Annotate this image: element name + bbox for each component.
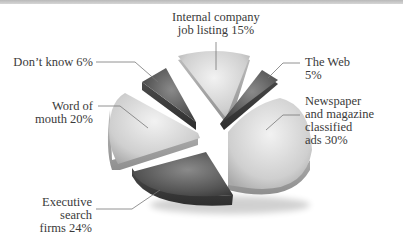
label-dontknow-line1: Don’t know 6% xyxy=(13,56,93,69)
label-word-of-mouth: Word of mouth 20% xyxy=(35,100,93,126)
label-internal-company: Internal company job listing 15% xyxy=(172,11,260,37)
label-the-web: The Web 5% xyxy=(305,56,350,82)
label-word-line2: mouth 20% xyxy=(35,113,93,126)
label-internal-line2: job listing 15% xyxy=(172,24,260,37)
label-executive-line3: firms 24% xyxy=(40,222,92,235)
label-newspaper: Newspaper and magazine classified ads 30… xyxy=(305,95,374,147)
label-web-line2: 5% xyxy=(305,69,350,82)
label-newspaper-line4: ads 30% xyxy=(305,134,374,147)
label-executive-search: Executive search firms 24% xyxy=(40,196,92,235)
label-dont-know: Don’t know 6% xyxy=(13,56,93,69)
